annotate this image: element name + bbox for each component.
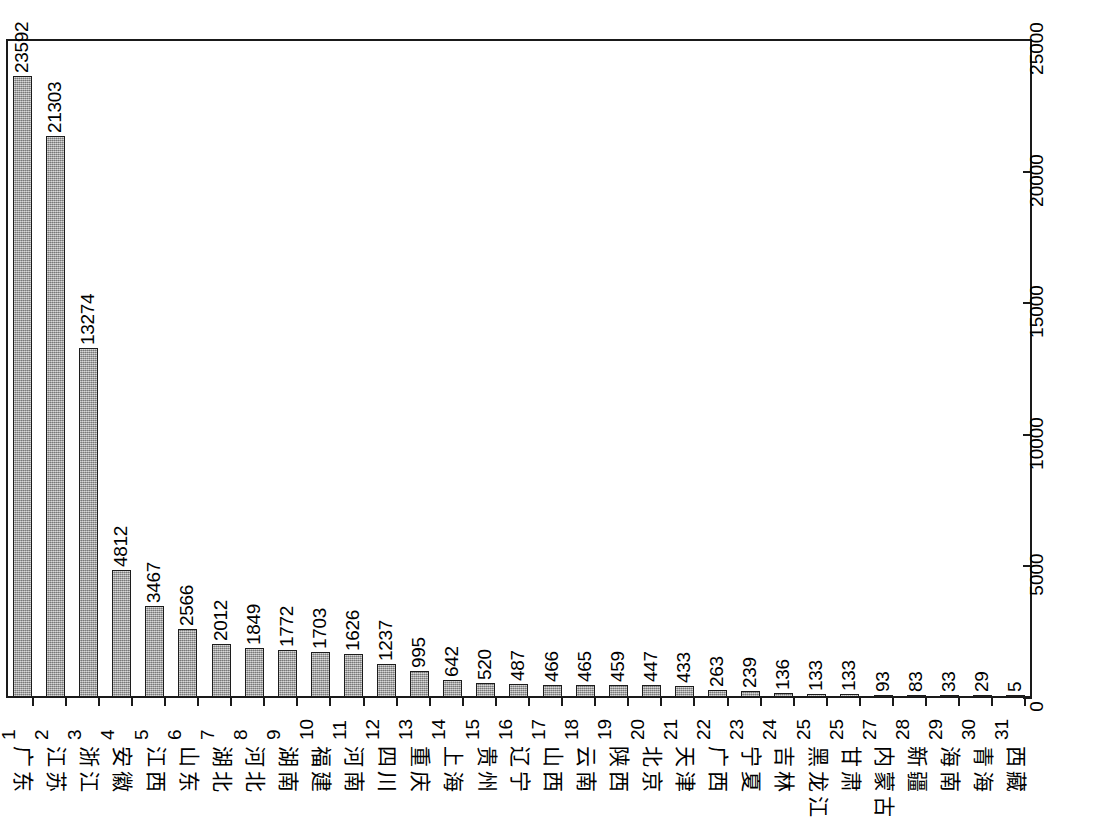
x-axis-category-label: 西藏 [1000, 744, 1032, 813]
x-axis-category-label: 北京 [636, 744, 668, 813]
x-axis-category-label: 广东 [7, 744, 39, 813]
x-axis-category-text: 内蒙古 [873, 746, 894, 821]
x-axis-rank-labels: 1234567891011121314151617181920212223242… [6, 706, 1032, 742]
x-axis-tick [396, 697, 398, 706]
x-axis-rank-text: 14 [432, 719, 446, 740]
bar-slot: 29 [967, 39, 999, 697]
x-axis-category-text: 广西 [707, 746, 728, 796]
x-axis-category-label: 安徽 [106, 744, 138, 813]
x-axis-tick [164, 697, 166, 706]
bar[interactable] [410, 671, 429, 697]
x-axis-category-text: 天津 [674, 746, 695, 796]
bar[interactable] [145, 606, 164, 697]
x-axis-category-label: 山西 [537, 744, 569, 813]
x-axis-category-label: 山东 [172, 744, 204, 813]
x-axis-rank-text: 29 [929, 719, 943, 740]
bar-value-label: 29 [972, 671, 991, 692]
bar[interactable] [46, 136, 65, 697]
x-axis-category-text: 新疆 [906, 746, 927, 796]
bar[interactable] [443, 680, 462, 697]
bar[interactable] [509, 684, 528, 697]
x-axis-tick [230, 697, 232, 706]
x-axis-tick [727, 697, 729, 706]
bar[interactable] [675, 686, 694, 697]
x-axis-tick [65, 697, 67, 706]
x-axis-rank-text: 11 [333, 720, 347, 740]
x-axis-category-label: 新疆 [901, 744, 933, 813]
bar-slot: 23592 [7, 39, 39, 697]
x-axis-rank-text: 2 [35, 729, 49, 740]
y-axis-tick-label: 15000 [1027, 285, 1046, 338]
x-axis-rank-text: 15 [466, 719, 480, 740]
bar-value-label: 995 [409, 637, 428, 668]
bar-slot: 2012 [206, 39, 238, 697]
x-axis-category-text: 山西 [542, 746, 563, 796]
x-axis-category-label: 吉林 [768, 744, 800, 813]
bar[interactable] [245, 648, 264, 697]
bar[interactable] [112, 570, 131, 697]
bar-value-label: 487 [508, 650, 527, 681]
bar-value-label: 447 [641, 651, 660, 682]
x-axis-rank-text: 9 [267, 729, 281, 740]
x-axis-tick [660, 697, 662, 706]
x-axis-category-label: 宁夏 [735, 744, 767, 813]
x-axis-tick [197, 697, 199, 706]
x-axis-category-text: 海南 [939, 746, 960, 796]
x-axis-category-text: 山东 [178, 746, 199, 796]
x-axis-tick [495, 697, 497, 706]
x-axis-category-text: 北京 [641, 746, 662, 796]
x-axis-category-label: 上海 [437, 744, 469, 813]
bar-value-label: 4812 [111, 526, 130, 567]
bar-slot: 13274 [73, 39, 105, 697]
y-axis-tick-label: 5000 [1027, 554, 1046, 596]
x-axis-tick [263, 697, 265, 706]
bar[interactable] [79, 348, 98, 697]
bar-value-label: 459 [608, 651, 627, 682]
bar[interactable] [178, 629, 197, 697]
bar[interactable] [344, 654, 363, 697]
bar-value-label: 239 [740, 657, 759, 688]
bar[interactable] [543, 685, 562, 697]
bar-value-label: 133 [839, 660, 858, 691]
bar[interactable] [476, 683, 495, 697]
x-axis-tick [859, 697, 861, 706]
x-axis-rank-text: 23 [730, 719, 744, 740]
x-axis-rank-text: 8 [234, 729, 248, 740]
bar[interactable] [278, 650, 297, 697]
x-axis-category-label: 湖北 [206, 744, 238, 813]
bar-value-label: 1626 [343, 610, 362, 651]
x-axis-category-label: 福建 [305, 744, 337, 813]
x-axis-rank-text: 21 [664, 719, 678, 740]
bar[interactable] [377, 664, 396, 697]
y-axis-tick-label: 25000 [1027, 22, 1046, 75]
bar[interactable] [311, 652, 330, 697]
x-axis-rank-text: 27 [863, 719, 877, 740]
x-axis-category-text: 上海 [442, 746, 463, 796]
bar[interactable] [708, 690, 727, 697]
bar-slot: 83 [901, 39, 933, 697]
bar[interactable] [13, 76, 32, 697]
bar-value-label: 21303 [45, 82, 64, 133]
x-axis-tick [826, 697, 828, 706]
x-axis-category-label: 四川 [371, 744, 403, 813]
x-axis-category-label: 广西 [702, 744, 734, 813]
x-axis-rank-text: 13 [399, 719, 413, 740]
x-axis-category-text: 四川 [376, 746, 397, 796]
x-axis-rank-text: 1 [2, 729, 16, 740]
bar-slot: 263 [702, 39, 734, 697]
x-axis-rank-text: 24 [763, 719, 777, 740]
bar-slot: 33 [934, 39, 966, 697]
y-axis-tick-label: 0 [1027, 701, 1046, 712]
x-axis-rank-text: 4 [101, 729, 115, 740]
x-axis-category-text: 云南 [575, 746, 596, 796]
bar-slot: 1772 [272, 39, 304, 697]
bar[interactable] [576, 685, 595, 697]
bar-value-label: 520 [475, 650, 494, 681]
bar[interactable] [609, 685, 628, 697]
bar[interactable] [212, 644, 231, 697]
x-axis-tick [131, 697, 133, 706]
x-axis-tick [329, 697, 331, 706]
bars-layer: 2359221303132744812346725662012184917721… [6, 39, 1032, 697]
bar[interactable] [642, 685, 661, 697]
